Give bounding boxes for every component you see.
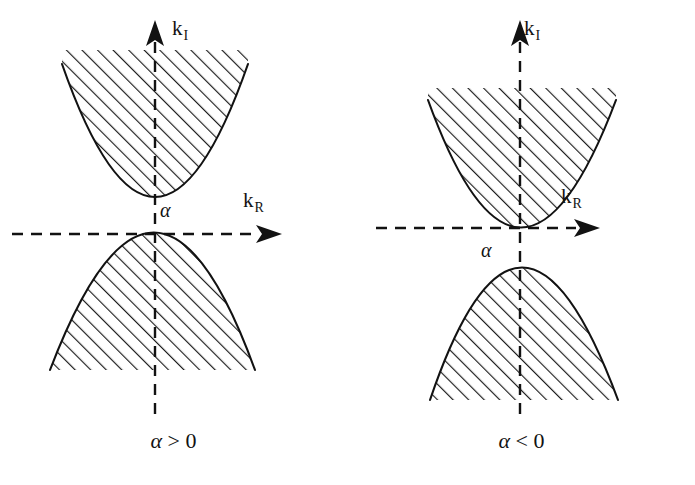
axis-label-ki-left: kI bbox=[172, 18, 187, 39]
axis-label-kr-left-sub: R bbox=[255, 200, 264, 215]
axis-label-ki-left-sub: I bbox=[184, 28, 189, 43]
caption-right-relation: < 0 bbox=[516, 428, 545, 453]
axis-label-kr-right-sub: R bbox=[573, 196, 582, 211]
alpha-gap-label-left: α bbox=[160, 200, 171, 220]
axis-label-kr-left: kR bbox=[243, 190, 263, 211]
lower-branch-region-right bbox=[413, 265, 643, 415]
axis-label-ki-right: kI bbox=[524, 18, 539, 39]
caption-left-symbol: α bbox=[151, 428, 163, 453]
alpha-gap-label-right: α bbox=[481, 240, 492, 260]
caption-left-relation: > 0 bbox=[168, 428, 197, 453]
caption-alpha-negative: α < 0 bbox=[348, 430, 695, 452]
axis-label-kr-right-base: k bbox=[561, 184, 572, 208]
axis-label-ki-left-base: k bbox=[172, 16, 183, 40]
panel-alpha-negative: kI kR α α < 0 bbox=[348, 0, 695, 485]
axis-label-kr-right: kR bbox=[561, 186, 581, 207]
figure-root: kI kR α α > 0 bbox=[0, 0, 695, 485]
upper-branch-region-right bbox=[408, 88, 638, 238]
caption-alpha-positive: α > 0 bbox=[0, 430, 347, 452]
panel-alpha-positive: kI kR α α > 0 bbox=[0, 0, 347, 485]
caption-right-symbol: α bbox=[499, 428, 511, 453]
axis-label-ki-right-base: k bbox=[524, 16, 535, 40]
axis-label-ki-right-sub: I bbox=[536, 28, 541, 43]
horizontal-axis-kr-right bbox=[376, 219, 600, 237]
axis-label-kr-left-base: k bbox=[243, 188, 254, 212]
